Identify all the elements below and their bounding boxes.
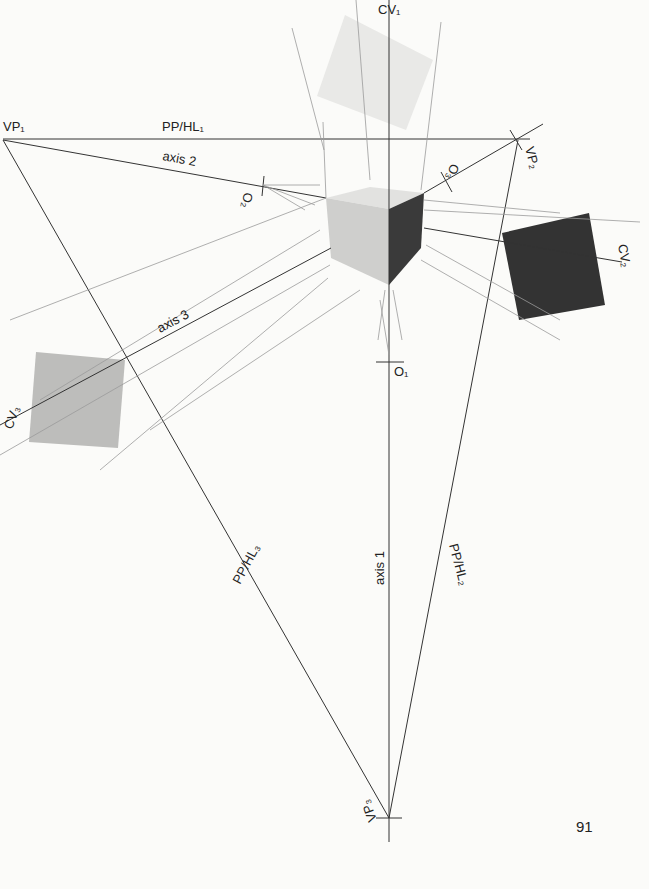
label-vp2: VP₂ — [522, 145, 542, 171]
label-pp-hl3: PP/HL₃ — [229, 542, 262, 587]
top-view-square — [317, 15, 433, 130]
cube-left-face — [326, 198, 389, 285]
label-axis2: axis 2 — [161, 148, 197, 169]
label-cv1: CV₁ — [378, 2, 401, 17]
page-number: 91 — [576, 818, 593, 835]
label-cv2: CV₂ — [615, 243, 634, 268]
right-view-square — [502, 213, 605, 320]
perspective-diagram: CV₁ VP₁ PP/HL₁ axis 2 O₂ O₃ VP₂ CV₂ axis… — [0, 0, 649, 889]
label-cv3: CV₃ — [1, 404, 23, 431]
label-pp-hl1: PP/HL₁ — [162, 119, 205, 134]
cube — [326, 187, 424, 285]
label-pp-hl2: PP/HL₂ — [446, 542, 472, 587]
label-o3: O₃ — [443, 162, 462, 182]
book-page: CV₁ VP₁ PP/HL₁ axis 2 O₂ O₃ VP₂ CV₂ axis… — [0, 0, 649, 889]
label-o2: O₂ — [238, 191, 255, 209]
cube-right-face — [389, 193, 424, 285]
axis3-line — [0, 248, 331, 425]
label-axis3: axis 3 — [154, 306, 191, 335]
label-axis1: axis 1 — [372, 551, 387, 585]
label-o1: O₁ — [394, 364, 409, 379]
label-vp1: VP₁ — [3, 119, 25, 134]
label-vp3: VP₃ — [358, 798, 380, 824]
